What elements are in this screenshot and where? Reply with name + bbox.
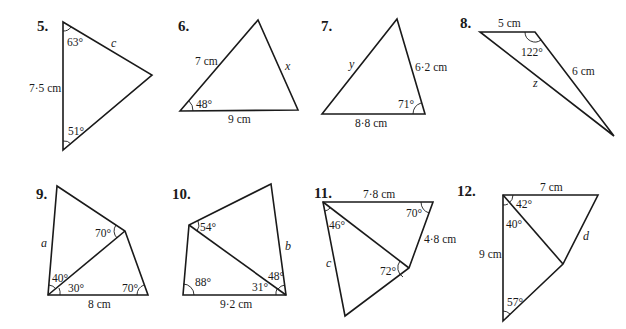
side-label: 8·8 cm bbox=[355, 117, 387, 129]
angle-label: 30° bbox=[68, 282, 85, 294]
problem-11: 11. 70° 46° 72° 7·8 cm 4·8 cm c bbox=[314, 185, 456, 316]
angle-label: 46° bbox=[329, 219, 346, 231]
angle-label: 71° bbox=[398, 98, 415, 110]
problem-7: 7. 71° 6·2 cm 8·8 cm y bbox=[321, 18, 447, 129]
problem-12: 12. 42° 40° 57° 7 cm 9 cm d bbox=[457, 181, 598, 321]
unknown-side-label: b bbox=[285, 239, 291, 253]
side-label: 6 cm bbox=[572, 65, 595, 77]
triangle bbox=[480, 32, 614, 136]
problem-10: 10. 54° 88° 31° 48° 9·2 cm b bbox=[172, 184, 291, 310]
angle-arc bbox=[325, 208, 330, 211]
problem-number: 10. bbox=[172, 186, 191, 202]
unknown-side-label: z bbox=[532, 76, 538, 90]
angle-arc bbox=[59, 288, 60, 295]
problem-8: 8. 122° 5 cm 6 cm z bbox=[460, 15, 614, 136]
angle-label: 122° bbox=[521, 46, 543, 58]
angle-label: 40° bbox=[52, 272, 69, 284]
side-label: 8 cm bbox=[88, 298, 111, 310]
unknown-side-label: y bbox=[348, 57, 355, 71]
problem-number: 6. bbox=[178, 18, 190, 34]
angle-arc bbox=[276, 289, 277, 295]
triangle-exercises-figure: 5. 63° 51° 7·5 cm c 6. 48° 7 cm 9 cm x 7… bbox=[0, 0, 626, 329]
angle-label: 57° bbox=[507, 296, 524, 308]
angle-label: 88° bbox=[195, 276, 212, 288]
problem-number: 9. bbox=[36, 186, 48, 202]
problem-5: 5. 63° 51° 7·5 cm c bbox=[29, 18, 152, 150]
unknown-side-label: c bbox=[326, 256, 332, 270]
unknown-side-label: a bbox=[41, 236, 47, 250]
diagonal bbox=[323, 202, 409, 268]
angle-arc bbox=[197, 221, 199, 231]
angle-label: 48° bbox=[196, 98, 213, 110]
angle-label: 42° bbox=[516, 198, 533, 210]
side-label: 9·2 cm bbox=[220, 298, 252, 310]
side-label: 7 cm bbox=[195, 55, 218, 67]
angle-arc bbox=[183, 284, 194, 295]
side-label: 6·2 cm bbox=[415, 61, 447, 73]
angle-arc bbox=[421, 202, 429, 213]
problem-number: 8. bbox=[460, 15, 472, 31]
angle-arc bbox=[63, 27, 71, 31]
angle-arc bbox=[278, 285, 285, 289]
angle-arc bbox=[189, 101, 193, 111]
angle-label: 70° bbox=[95, 227, 112, 239]
unknown-side-label: d bbox=[583, 229, 590, 243]
angle-label: 63° bbox=[67, 36, 84, 48]
angle-label: 31° bbox=[252, 281, 269, 293]
side-label: 5 cm bbox=[498, 17, 521, 29]
angle-label: 40° bbox=[506, 218, 523, 230]
problem-number: 11. bbox=[314, 185, 332, 201]
unknown-side-label: x bbox=[284, 59, 291, 73]
problem-number: 12. bbox=[457, 183, 476, 199]
angle-label: 54° bbox=[200, 221, 217, 233]
angle-label: 70° bbox=[406, 207, 423, 219]
problem-number: 7. bbox=[321, 18, 333, 34]
side-label: 7·8 cm bbox=[363, 188, 395, 200]
diagonal bbox=[48, 231, 125, 295]
problem-9: 9. 70° 40° 30° 70° 8 cm a bbox=[36, 186, 148, 310]
angle-label: 70° bbox=[122, 282, 139, 294]
problem-number: 5. bbox=[37, 18, 49, 34]
side-label: 7·5 cm bbox=[29, 82, 61, 94]
angle-arc bbox=[413, 103, 421, 114]
problem-6: 6. 48° 7 cm 9 cm x bbox=[178, 18, 298, 125]
angle-arc bbox=[49, 285, 56, 289]
unknown-side-label: c bbox=[111, 36, 117, 50]
angle-label: 51° bbox=[68, 125, 85, 137]
side-label: 9 cm bbox=[479, 248, 502, 260]
angle-arc bbox=[114, 225, 117, 238]
angle-arc bbox=[503, 311, 510, 314]
angle-label: 48° bbox=[268, 270, 285, 282]
angle-label: 72° bbox=[380, 265, 397, 277]
side-label: 7 cm bbox=[540, 181, 563, 193]
side-label: 9 cm bbox=[228, 113, 251, 125]
side-label: 4·8 cm bbox=[424, 233, 456, 245]
